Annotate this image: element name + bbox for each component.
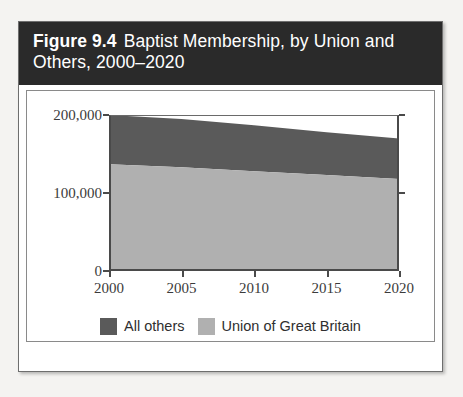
y-tick-label: 200,000 — [53, 106, 102, 123]
legend-item: All others — [100, 318, 184, 335]
legend-label: All others — [124, 318, 184, 334]
x-tick-label: 2005 — [167, 280, 197, 297]
figure-number: Figure 9.4 — [33, 31, 117, 51]
stacked-area-series — [109, 115, 399, 271]
x-tick-mark — [254, 271, 256, 277]
y-tick-mark — [103, 114, 109, 116]
y-tick-mark — [103, 192, 109, 194]
figure-card: Figure 9.4Baptist Membership, by Union a… — [18, 21, 443, 372]
y-tick-mark-right — [399, 192, 405, 194]
plot-area: 0100,000200,000 20002005201020152020 — [109, 115, 399, 271]
chart-panel: 0100,000200,000 20002005201020152020 All… — [26, 90, 435, 342]
legend-swatch — [100, 318, 117, 335]
chart-legend: All othersUnion of Great Britain — [27, 318, 434, 335]
legend-swatch — [198, 318, 215, 335]
x-tick-label: 2020 — [384, 280, 414, 297]
area-band-union-of-great-britain — [109, 164, 399, 271]
y-tick-label: 100,000 — [53, 184, 102, 201]
x-tick-mark — [399, 271, 401, 277]
x-tick-mark — [182, 271, 184, 277]
page-title: Figure 9.4Baptist Membership, by Union a… — [33, 31, 428, 74]
y-tick-label: 0 — [95, 262, 103, 279]
legend-item: Union of Great Britain — [198, 318, 361, 335]
x-tick-mark — [327, 271, 329, 277]
x-tick-mark — [109, 271, 111, 277]
y-tick-mark-right — [399, 114, 405, 116]
x-tick-label: 2000 — [94, 280, 124, 297]
legend-label: Union of Great Britain — [222, 318, 361, 334]
x-tick-label: 2010 — [239, 280, 269, 297]
x-tick-label: 2015 — [312, 280, 342, 297]
figure-title-bar: Figure 9.4Baptist Membership, by Union a… — [19, 22, 442, 85]
